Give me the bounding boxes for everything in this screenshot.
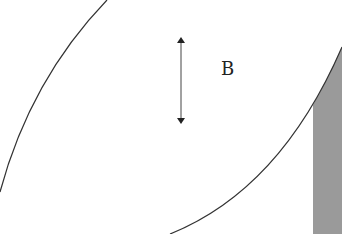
shaded-region — [313, 47, 342, 234]
diagram-canvas — [0, 0, 342, 234]
label-b: B — [221, 58, 234, 79]
left-curve — [0, 0, 107, 192]
